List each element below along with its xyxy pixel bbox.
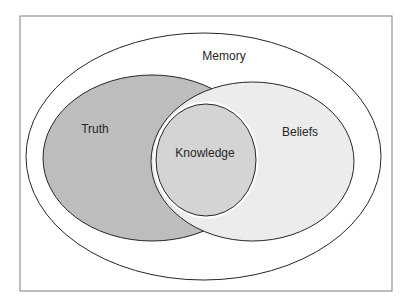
knowledge-label: Knowledge bbox=[175, 146, 235, 160]
knowledge-ellipse bbox=[156, 104, 256, 216]
truth-label: Truth bbox=[81, 122, 109, 136]
venn-diagram: Memory Truth Beliefs Knowledge bbox=[0, 0, 410, 304]
beliefs-label: Beliefs bbox=[282, 125, 318, 139]
memory-label: Memory bbox=[202, 49, 245, 63]
